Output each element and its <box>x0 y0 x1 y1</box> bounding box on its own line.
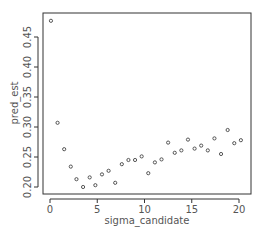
y-tick-label: 0.30 <box>22 116 33 138</box>
data-point <box>160 158 163 161</box>
data-point <box>94 184 97 187</box>
data-point <box>173 151 176 154</box>
data-point <box>233 142 236 145</box>
x-tick-label: 10 <box>138 204 151 215</box>
data-point <box>213 137 216 140</box>
data-point <box>239 139 242 142</box>
data-points <box>49 19 242 188</box>
y-tick-label: 0.35 <box>22 86 33 108</box>
data-point <box>56 121 59 124</box>
plot-frame <box>43 13 251 194</box>
data-point <box>49 19 52 22</box>
data-point <box>63 148 66 151</box>
x-tick-label: 20 <box>233 204 246 215</box>
data-point <box>88 176 91 179</box>
x-axis-label: sigma_candidate <box>105 215 190 227</box>
data-point <box>69 165 72 168</box>
data-point <box>100 173 103 176</box>
x-tick-label: 15 <box>185 204 198 215</box>
data-point <box>147 172 150 175</box>
x-tick-label: 5 <box>94 204 100 215</box>
data-point <box>180 149 183 152</box>
y-tick-label: 0.25 <box>22 146 33 168</box>
data-point <box>133 158 136 161</box>
data-point <box>81 185 84 188</box>
data-point <box>127 158 130 161</box>
data-point <box>226 128 229 131</box>
data-point <box>167 141 170 144</box>
data-point <box>219 152 222 155</box>
y-axis-label: pred_est <box>9 81 21 124</box>
data-point <box>186 138 189 141</box>
data-point <box>193 147 196 150</box>
data-point <box>75 178 78 181</box>
y-tick-label: 0.45 <box>22 26 33 48</box>
y-tick-label: 0.20 <box>22 176 33 198</box>
x-tick-label: 0 <box>47 204 53 215</box>
x-axis: 05101520 <box>47 199 246 215</box>
data-point <box>140 155 143 158</box>
y-tick-label: 0.40 <box>22 56 33 78</box>
data-point <box>120 163 123 166</box>
scatter-chart: 0.200.250.300.350.400.45 05101520 sigma_… <box>0 0 263 235</box>
y-axis: 0.200.250.300.350.400.45 <box>22 26 38 198</box>
data-point <box>107 169 110 172</box>
data-point <box>206 149 209 152</box>
data-point <box>200 144 203 147</box>
data-point <box>153 161 156 164</box>
data-point <box>114 181 117 184</box>
